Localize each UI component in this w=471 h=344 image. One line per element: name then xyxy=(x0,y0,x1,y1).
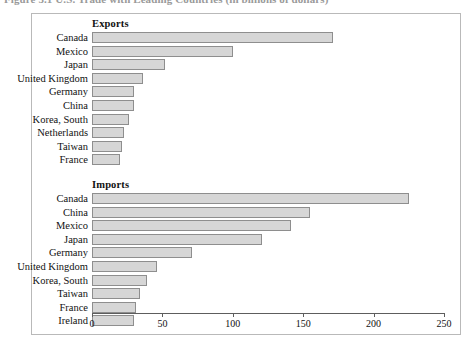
bar-row: Ireland xyxy=(32,315,460,327)
bar-row: Korea, South xyxy=(32,114,460,126)
bar xyxy=(92,100,134,111)
bar xyxy=(92,154,120,165)
x-axis-tick-label: 150 xyxy=(296,318,311,329)
bar xyxy=(92,114,129,125)
bar-category-label: Mexico xyxy=(0,45,88,58)
bar-row: Netherlands xyxy=(32,127,460,139)
x-axis-tick xyxy=(303,313,304,317)
bar xyxy=(92,275,147,286)
bar xyxy=(92,247,192,258)
x-axis-tick xyxy=(92,313,93,317)
bar-category-label: United Kingdom xyxy=(0,260,88,273)
bar-category-label: United Kingdom xyxy=(0,72,88,85)
x-axis-tick xyxy=(374,313,375,317)
figure-caption: Figure 5.1 U.S. Trade with Leading Count… xyxy=(4,0,328,5)
bar xyxy=(92,220,291,231)
chart-frame: Exports CanadaMexicoJapanUnited KingdomG… xyxy=(31,13,461,335)
bar-category-label: Korea, South xyxy=(0,274,88,287)
bar-category-label: Japan xyxy=(0,233,88,246)
panel-title-exports: Exports xyxy=(92,18,129,29)
x-axis-tick-label: 50 xyxy=(157,318,167,329)
panel-title-imports: Imports xyxy=(92,179,129,190)
bar-category-label: China xyxy=(0,206,88,219)
bar-row: Canada xyxy=(32,32,460,44)
x-axis-tick xyxy=(162,313,163,317)
bar xyxy=(92,73,143,84)
bar-row: France xyxy=(32,154,460,166)
bar-row: United Kingdom xyxy=(32,73,460,85)
bar-row: Germany xyxy=(32,86,460,98)
bar-category-label: Germany xyxy=(0,246,88,259)
bar xyxy=(92,261,157,272)
bar-row: Mexico xyxy=(32,220,460,232)
bar-category-label: Mexico xyxy=(0,219,88,232)
bar-row: Mexico xyxy=(32,46,460,58)
bar-category-label: Taiwan xyxy=(0,287,88,300)
x-axis-line xyxy=(92,313,444,314)
bar xyxy=(92,193,409,204)
bar-category-label: Germany xyxy=(0,85,88,98)
bar-row: Germany xyxy=(32,247,460,259)
bar-row: Japan xyxy=(32,59,460,71)
bar-category-label: Ireland xyxy=(0,314,88,327)
figure-caption-strip: Figure 5.1 U.S. Trade with Leading Count… xyxy=(0,0,471,11)
bar-row: Taiwan xyxy=(32,288,460,300)
bar-row: China xyxy=(32,207,460,219)
x-axis-tick-label: 200 xyxy=(366,318,381,329)
bar-category-label: Japan xyxy=(0,58,88,71)
bar xyxy=(92,127,124,138)
bar-category-label: China xyxy=(0,99,88,112)
bar-row: Japan xyxy=(32,234,460,246)
bar-row: Canada xyxy=(32,193,460,205)
bar xyxy=(92,315,134,326)
bar-row: China xyxy=(32,100,460,112)
bar-row: France xyxy=(32,302,460,314)
bar-category-label: Taiwan xyxy=(0,140,88,153)
bar xyxy=(92,288,140,299)
bar-category-label: France xyxy=(0,153,88,166)
bar-category-label: France xyxy=(0,301,88,314)
bar-category-label: Canada xyxy=(0,192,88,205)
bar xyxy=(92,302,136,313)
bar-category-label: Canada xyxy=(0,31,88,44)
bar-category-label: Korea, South xyxy=(0,113,88,126)
bar xyxy=(92,46,233,57)
x-axis-tick xyxy=(233,313,234,317)
x-axis-tick-label: 250 xyxy=(437,318,452,329)
bar-row: United Kingdom xyxy=(32,261,460,273)
x-axis-tick-label: 0 xyxy=(90,318,95,329)
x-axis-tick-label: 100 xyxy=(225,318,240,329)
bar-category-label: Netherlands xyxy=(0,126,88,139)
bar xyxy=(92,32,333,43)
bar xyxy=(92,207,310,218)
bar-row: Korea, South xyxy=(32,275,460,287)
bar xyxy=(92,141,122,152)
x-axis-tick xyxy=(444,313,445,317)
bar xyxy=(92,234,262,245)
bar-row: Taiwan xyxy=(32,141,460,153)
bar xyxy=(92,86,134,97)
bar xyxy=(92,59,165,70)
